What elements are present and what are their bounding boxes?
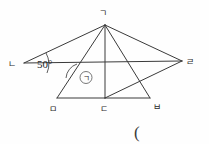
circled-angle-marker-label: ㄱ: [83, 74, 90, 83]
vertex-label-bottom-left: ㅁ: [49, 104, 57, 114]
open-paren-annotation: (: [134, 123, 140, 142]
geometry-figure-canvas: ㄱ ㄴ ㄹ ㅁ ㄷ ㅂ 50° ㄱ (: [0, 0, 209, 144]
vertex-label-bottom-mid: ㄷ: [100, 104, 108, 114]
segment-bottom-mid-to-right: [105, 61, 182, 98]
angle-measure-50-degrees: 50°: [37, 58, 52, 70]
vertex-label-left: ㄴ: [8, 59, 16, 69]
vertex-label-right: ㄹ: [186, 57, 194, 67]
vertex-label-apex: ㄱ: [99, 8, 107, 18]
vertex-label-bottom-right: ㅂ: [153, 102, 161, 112]
geometry-diagram: ㄱ ㄴ ㄹ ㅁ ㄷ ㅂ 50° ㄱ (: [0, 0, 209, 144]
